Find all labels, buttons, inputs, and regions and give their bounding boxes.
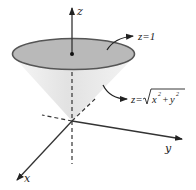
y-axis [72,121,182,139]
svg-text:2: 2 [158,91,161,97]
y-axis-label: y [164,142,172,155]
svg-text:y: y [169,94,175,105]
plane-equation-label: z=1 [137,30,155,42]
svg-text:x: x [151,94,157,105]
svg-text:z=: z= [130,93,143,105]
svg-text:2: 2 [176,91,179,97]
svg-text:+: + [162,94,169,105]
z-axis-label: z [76,5,83,18]
x-axis-label: x [24,172,31,185]
z-axis-center-dot [70,52,74,56]
cone-equation-label: z= x 2 + y 2 [130,89,185,105]
cone-diagram: z x y z=1 z= x 2 + y 2 [0,0,196,190]
cone-leader-arrow [103,85,127,99]
